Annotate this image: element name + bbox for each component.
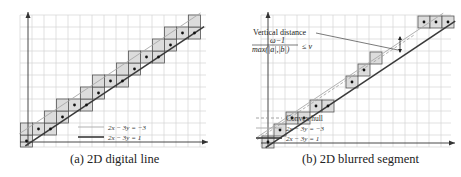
pixel-center-dot [169, 44, 172, 47]
pixel-center-dot [61, 116, 64, 119]
pixel-center-dot [73, 104, 76, 107]
x-axis-arrow-icon [202, 140, 208, 145]
annotation-denominator: max(|a|,|b|) [252, 45, 290, 54]
pixel-center-dot [97, 92, 100, 95]
x-axis-arrow-icon [449, 141, 455, 146]
pixel-center-dot [109, 80, 112, 83]
panel-blurred-segment: Convex hull2x − 3y = −32x − 3y = 1Vertic… [230, 0, 461, 177]
legend-label: 2x − 3y = −3 [108, 124, 146, 132]
legend-label: 2x − 3y = 1 [286, 135, 319, 143]
pixel-center-dot [363, 69, 366, 72]
legend: 2x − 3y = −32x − 3y = 1 [78, 124, 146, 142]
pixel-center-dot [133, 68, 136, 71]
annotation-relation: ≤ ν [302, 42, 312, 51]
caption-b: (b) 2D blurred segment [302, 152, 419, 167]
legend-label: Convex hull [286, 114, 323, 123]
pixel-center-dot [447, 21, 450, 24]
legend: Convex hull2x − 3y = −32x − 3y = 1 [256, 114, 324, 143]
blurred-segment-diagram: Convex hull2x − 3y = −32x − 3y = 1Vertic… [230, 0, 461, 150]
pixel-center-dot [435, 21, 438, 24]
pixel-center-dot [85, 104, 88, 107]
pixel-center-dot [267, 141, 270, 144]
pixel-center-dot [423, 21, 426, 24]
legend-label: 2x − 3y = −3 [286, 125, 324, 133]
pixel-center-dot [351, 81, 354, 84]
pixel-center-dot [25, 140, 28, 143]
digital-line-diagram: 2x − 3y = −32x − 3y = 1 [0, 0, 230, 150]
panel-digital-line: 2x − 3y = −32x − 3y = 1 (a) 2D digital l… [0, 0, 230, 177]
pixel-center-dot [279, 129, 282, 132]
pixel-center-dot [181, 32, 184, 35]
arrowhead-up-icon [398, 36, 402, 40]
pixel-center-dot [315, 105, 318, 108]
pixel-center-dot [49, 128, 52, 131]
pixel-center-dot [37, 128, 40, 131]
pixel-center-dot [145, 56, 148, 59]
legend-label: 2x − 3y = 1 [108, 134, 141, 142]
vertical-distance-annotation: Vertical distanceω−1max(|a|,|b|)≤ ν [252, 28, 402, 54]
caption-a: (a) 2D digital line [70, 152, 159, 167]
pixel-center-dot [121, 80, 124, 83]
pixel-center-dot [193, 32, 196, 35]
annotation-numerator: ω−1 [270, 36, 285, 45]
line-upper-bound [19, 13, 200, 134]
pixel-center-dot [327, 105, 330, 108]
pixel-center-dot [157, 56, 160, 59]
